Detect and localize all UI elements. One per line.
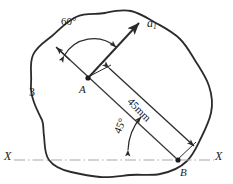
- point-b-marker: [175, 157, 180, 162]
- figure-canvas: a1 A B X X 3 60° 45mm 45°: [0, 0, 233, 184]
- label-axis-x-right: X: [215, 150, 222, 162]
- label-angle-60: 60°: [61, 16, 76, 27]
- label-vector-a1-subscript: 1: [153, 22, 157, 31]
- label-axis-x-left: X: [4, 150, 11, 162]
- point-a-marker: [85, 75, 90, 80]
- label-point-b: B: [180, 167, 187, 178]
- label-body-number-3: 3: [29, 86, 35, 98]
- label-vector-a1: a1: [147, 17, 157, 31]
- label-point-a: A: [79, 84, 86, 95]
